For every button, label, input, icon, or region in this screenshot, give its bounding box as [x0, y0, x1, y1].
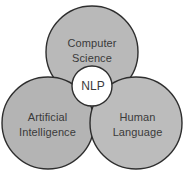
circle-nlp-center [72, 66, 112, 106]
venn-diagram: Computer Science Artificial Intelligence… [0, 0, 185, 180]
venn-diagram-graphic [0, 0, 185, 180]
